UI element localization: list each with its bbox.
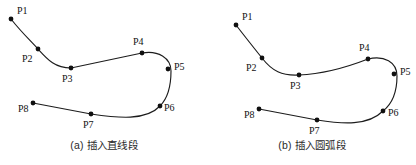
control-point-p5[interactable] (166, 67, 171, 72)
panel-a-caption: (a) 插入直线段 (0, 138, 208, 152)
control-point-p3[interactable] (69, 66, 74, 71)
control-point-p2[interactable] (260, 56, 265, 61)
control-point-p4[interactable] (140, 51, 145, 56)
control-point-p7[interactable] (315, 118, 320, 123)
control-point-labels-b: P1P2P3P4P5P6P7P8 (242, 11, 411, 136)
figure-root: P1P2P3P4P5P6P7P8 (a) 插入直线段 P1P2P3P4P5P6P… (0, 0, 416, 165)
control-point-label-p5: P5 (174, 61, 185, 72)
control-point-dots-a (9, 17, 171, 117)
control-point-label-p3: P3 (62, 73, 73, 84)
control-point-p2[interactable] (36, 47, 41, 52)
control-point-p6[interactable] (381, 109, 386, 114)
control-point-p1[interactable] (9, 17, 14, 22)
control-point-label-p2: P2 (246, 62, 257, 73)
control-point-label-p5: P5 (400, 66, 411, 77)
diagram-a-canvas: P1P2P3P4P5P6P7P8 (0, 0, 208, 140)
control-point-p7[interactable] (89, 112, 94, 117)
control-point-label-p6: P6 (388, 107, 399, 118)
control-point-label-p4: P4 (359, 42, 370, 53)
control-point-p8[interactable] (31, 101, 36, 106)
control-point-p1[interactable] (234, 23, 239, 28)
control-point-p3[interactable] (297, 73, 302, 78)
control-point-label-p1: P1 (17, 5, 28, 16)
control-point-label-p8: P8 (18, 103, 29, 114)
control-point-p4[interactable] (366, 57, 371, 62)
control-point-p8[interactable] (257, 107, 262, 112)
control-point-dots-b (234, 23, 397, 123)
control-point-p6[interactable] (158, 104, 163, 109)
control-point-label-p3: P3 (290, 80, 301, 91)
diagram-b-canvas: P1P2P3P4P5P6P7P8 (208, 0, 416, 140)
control-point-label-p6: P6 (164, 102, 175, 113)
control-point-label-p4: P4 (133, 36, 144, 47)
control-point-labels-a: P1P2P3P4P5P6P7P8 (17, 5, 185, 130)
panel-b-caption: (b) 插入圆弧段 (208, 138, 416, 152)
control-point-label-p7: P7 (309, 125, 320, 136)
control-point-p5[interactable] (392, 72, 397, 77)
figure-panel-a: P1P2P3P4P5P6P7P8 (a) 插入直线段 (0, 0, 208, 165)
control-point-label-p7: P7 (83, 119, 94, 130)
control-point-label-p2: P2 (22, 53, 33, 64)
control-point-label-p8: P8 (244, 109, 255, 120)
control-point-label-p1: P1 (242, 11, 253, 22)
figure-panel-b: P1P2P3P4P5P6P7P8 (b) 插入圆弧段 (208, 0, 416, 165)
